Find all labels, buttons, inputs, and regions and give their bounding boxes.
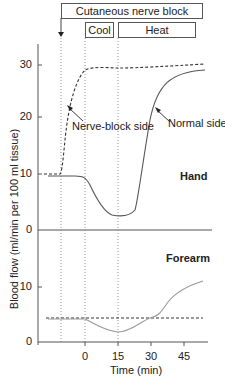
y-tick-30: 30 bbox=[12, 58, 32, 70]
x-tick-0: 0 bbox=[73, 350, 97, 362]
x-tick-45: 45 bbox=[172, 350, 196, 362]
nerve-block-label: Cutaneous nerve block bbox=[61, 3, 203, 19]
x-tick-15: 15 bbox=[106, 350, 130, 362]
x-axis-label: Time (min) bbox=[110, 364, 162, 376]
x-tick-30: 30 bbox=[139, 350, 163, 362]
hand-normal-line bbox=[48, 70, 205, 216]
forearm-normal-line bbox=[48, 281, 203, 332]
hand-panel-label: Hand bbox=[180, 170, 208, 182]
normal-side-label: Normal side bbox=[168, 117, 225, 129]
cool-label: Cool bbox=[85, 22, 114, 38]
forearm-panel-label: Forearm bbox=[166, 252, 210, 264]
y-axis-label: Blood flow (ml/min per 100 ml tissue) bbox=[8, 119, 20, 319]
heat-label: Heat bbox=[118, 22, 196, 38]
forearm-tick-0: 0 bbox=[12, 335, 32, 347]
nerve-block-side-label: Nerve-block side bbox=[72, 120, 154, 132]
chart-canvas bbox=[0, 0, 225, 380]
arrow-down-icon bbox=[58, 32, 64, 37]
event-markers bbox=[61, 38, 118, 342]
